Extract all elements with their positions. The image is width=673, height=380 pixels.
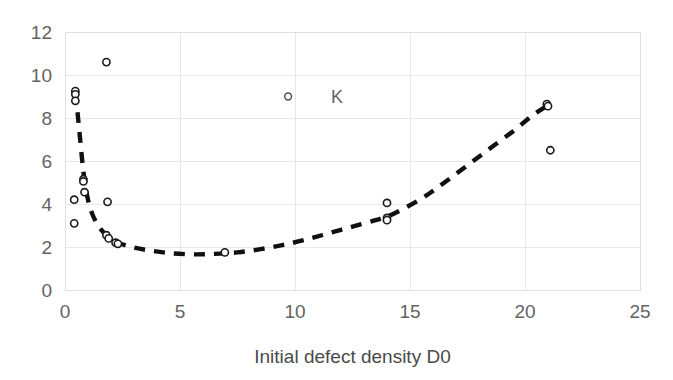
data-point bbox=[80, 178, 87, 185]
y-tick-label: 6 bbox=[41, 151, 52, 172]
data-point bbox=[544, 103, 551, 110]
data-point bbox=[81, 189, 88, 196]
data-point bbox=[71, 196, 78, 203]
y-tick-label: 0 bbox=[41, 280, 52, 301]
chart-container: 024681012 0510152025 K Initial defect de… bbox=[0, 0, 673, 380]
data-point bbox=[114, 240, 121, 247]
data-point bbox=[221, 249, 228, 256]
y-tick-label: 8 bbox=[41, 108, 52, 129]
data-point bbox=[104, 198, 111, 205]
legend-marker-icon bbox=[285, 93, 292, 100]
data-point bbox=[383, 217, 390, 224]
y-tick-label: 4 bbox=[41, 194, 52, 215]
x-tick-label: 5 bbox=[175, 301, 186, 322]
y-tick-label: 12 bbox=[31, 22, 52, 43]
legend-label: K bbox=[331, 87, 343, 107]
x-tick-label: 10 bbox=[284, 301, 305, 322]
data-point bbox=[105, 235, 112, 242]
x-axis-title: Initial defect density D0 bbox=[254, 346, 450, 367]
x-tick-label: 25 bbox=[629, 301, 650, 322]
chart-background bbox=[0, 0, 673, 380]
x-tick-label: 20 bbox=[514, 301, 535, 322]
data-point bbox=[71, 220, 78, 227]
data-point bbox=[383, 199, 390, 206]
x-tick-label: 0 bbox=[60, 301, 71, 322]
data-point bbox=[72, 97, 79, 104]
scatter-chart: 024681012 0510152025 K Initial defect de… bbox=[0, 0, 673, 380]
x-tick-label: 15 bbox=[399, 301, 420, 322]
data-point bbox=[103, 59, 110, 66]
y-tick-label: 2 bbox=[41, 237, 52, 258]
y-tick-label: 10 bbox=[31, 65, 52, 86]
data-point bbox=[547, 147, 554, 154]
